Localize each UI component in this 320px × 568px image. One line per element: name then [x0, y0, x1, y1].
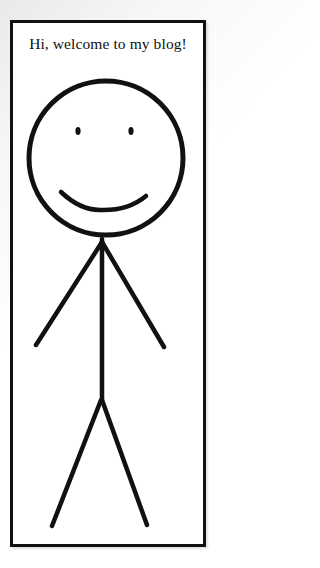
blog-welcome-card: Hi, welcome to my blog!: [10, 20, 206, 547]
left-arm: [36, 242, 102, 345]
smile-icon: [61, 192, 146, 210]
left-leg: [52, 400, 101, 526]
right-leg: [102, 400, 147, 525]
right-eye-icon: [128, 127, 133, 135]
right-arm: [102, 242, 164, 347]
left-eye-icon: [75, 127, 80, 135]
stick-figure-icon: [13, 23, 203, 544]
